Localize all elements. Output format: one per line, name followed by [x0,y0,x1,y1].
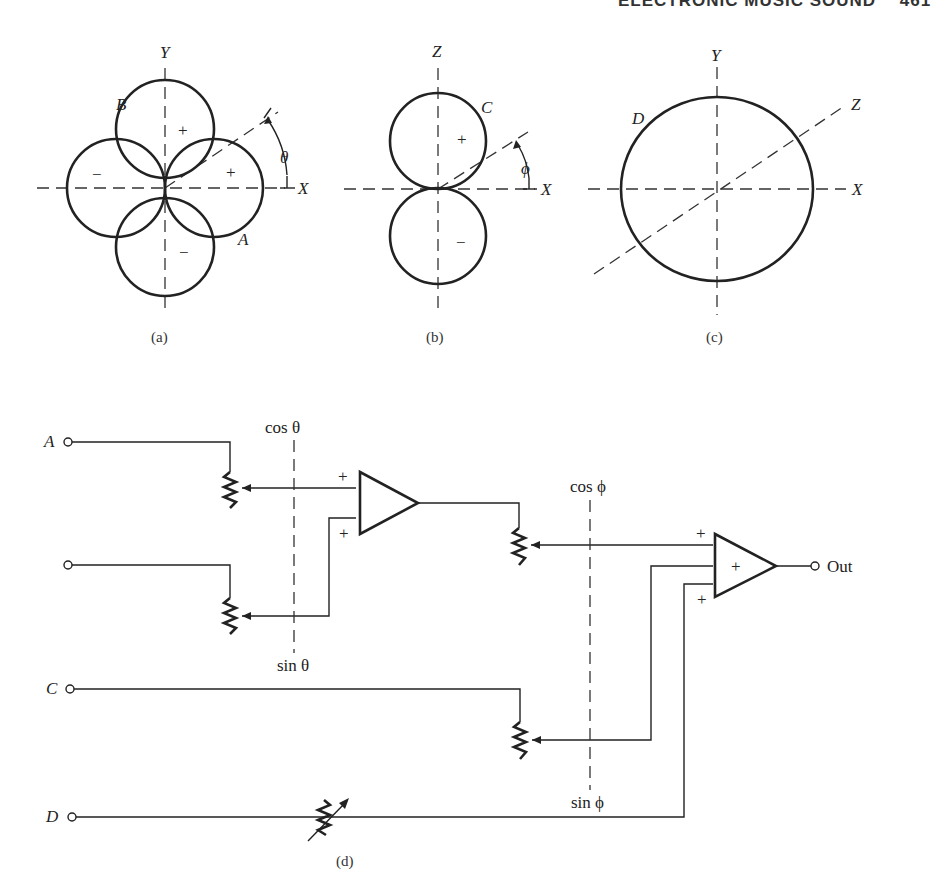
figure-b-pattern: Z X C ϕ + − [344,42,552,315]
wire [74,689,520,722]
x-axis-label: X [297,179,309,198]
sin-phi-label: sin ϕ [571,793,604,812]
lobe-a-label: A [237,230,249,249]
sign-bottom: − [456,233,466,252]
pattern-d-label: D [631,109,645,128]
input-b-terminal[interactable] [64,561,72,569]
wiper-arrow-icon [242,484,251,492]
input-c-terminal[interactable] [66,685,74,693]
wire [532,566,713,740]
y-axis-label: Y [160,43,171,62]
caption-b: (b) [426,329,444,346]
lobe-c-label: C [481,98,493,117]
theta-label: θ [280,148,288,167]
output-label: Out [827,557,853,576]
potentiometer-cos-theta-a [224,472,236,508]
caption-a: (a) [151,329,168,346]
z-axis-label: Z [432,42,442,61]
circuit-diagram: A cos θ sin θ + + C cos ϕ sin ϕ [43,418,853,841]
caption-d: (d) [336,853,354,870]
wiper-arrow-icon [531,541,540,549]
input-c-label: C [46,679,58,698]
phi-label: ϕ [521,159,530,178]
x-axis-label: X [540,180,552,199]
amp2-sign-3: + [697,590,707,609]
summing-amplifier-2 [715,534,776,597]
tick [264,108,271,118]
sign-top: + [178,121,188,140]
sign-left: − [92,165,102,184]
input-a-terminal[interactable] [64,438,72,446]
figure-a-pattern: Y X B A θ + + − − [37,43,309,315]
cos-theta-label: cos θ [265,418,300,437]
figure-c-pattern: Y X Z D [588,46,863,315]
potentiometer-cos-phi [513,528,525,565]
wire [418,503,519,528]
wire [72,442,230,472]
sign-right: + [226,163,236,182]
x-axis-label: X [851,180,863,199]
amp1-sign-2: + [339,524,349,543]
z-axis-label: Z [851,95,861,114]
wire [72,565,230,598]
page-number: 461 [900,0,931,10]
sin-theta-label: sin θ [277,656,309,675]
input-d-label: D [45,807,59,826]
output-terminal[interactable] [811,562,819,570]
wiper-arrow-icon [532,736,541,744]
input-d-terminal[interactable] [68,813,76,821]
amp2-sign-1: + [696,524,706,543]
potentiometer-sin-theta-b [224,598,236,634]
cos-phi-label: cos ϕ [570,477,606,496]
wire [76,584,713,817]
amp1-sign-1: + [338,467,348,486]
sign-top: + [457,130,467,149]
lobe-b-label: B [116,95,127,114]
y-axis-label: Y [711,46,722,65]
caption-c: (c) [706,329,723,346]
wiper-arrow-icon [242,612,251,620]
summing-amplifier-1 [360,472,418,534]
sign-bottom: − [179,243,189,262]
potentiometer-sin-phi [514,722,526,759]
input-a-label: A [43,432,55,451]
variable-arrow [308,802,346,841]
amp2-sign-2: + [731,557,741,576]
